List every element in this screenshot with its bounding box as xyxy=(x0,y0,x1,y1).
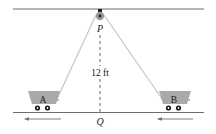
cart-b-arrow-icon xyxy=(157,117,193,120)
cart-b: B xyxy=(159,91,191,111)
rope-b xyxy=(104,15,162,99)
cart-a-arrow-icon xyxy=(24,117,61,120)
cart-a: A xyxy=(28,91,60,111)
pulley-icon xyxy=(96,9,104,20)
ground-point-label: Q xyxy=(96,116,104,127)
pulley-label: P xyxy=(96,23,103,34)
pulley-diagram: P 12 ft A B Q xyxy=(0,0,216,134)
cart-b-label: B xyxy=(171,95,177,105)
cart-a-label: A xyxy=(40,95,47,105)
height-label: 12 ft xyxy=(91,68,109,78)
rope-a xyxy=(57,15,96,99)
